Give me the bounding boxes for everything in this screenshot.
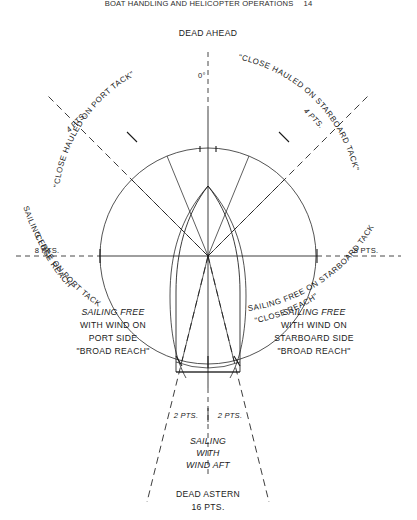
label-port-8pts: 8 PTS. [35, 246, 60, 255]
label-port-broad-line3: PORT SIDE [89, 333, 138, 343]
label-close-reach-port: "CLOSE REACH" [32, 230, 76, 291]
label-zero-degrees: 0° [198, 71, 206, 80]
label-sailing-free-port: SAILING FREE ON PORT TACK [21, 205, 103, 309]
label-aft-line1: SAILING [190, 436, 226, 446]
label-close-hauled-starboard: "CLOSE HAULED ON STARBOARD TACK" [238, 53, 361, 172]
tick-port-2pts [176, 356, 182, 366]
label-port-broad-line1: SAILING FREE [81, 307, 144, 317]
label-starboard-broad-line2: WITH WIND ON [281, 320, 347, 330]
label-dead-astern-points: 16 PTS. [191, 502, 224, 512]
label-dead-astern: DEAD ASTERN [176, 489, 240, 499]
radial-port-2pts [182, 256, 208, 361]
points-of-sail-diagram: "CLOSE HAULED ON PORT TACK" "CLOSE HAULE… [0, 0, 417, 520]
label-aft-line3: WIND AFT [186, 460, 230, 470]
label-starboard-8pts: 8 PTS. [354, 246, 379, 255]
radial-close-hauled-starboard [208, 156, 249, 256]
radial-close-hauled-port [167, 156, 208, 256]
tick-starboard-2pts [234, 356, 240, 366]
label-starboard-broad-line3: STARBOARD SIDE [274, 333, 354, 343]
label-dead-ahead: DEAD AHEAD [179, 28, 237, 38]
tick-port-4pts [127, 132, 137, 142]
label-port-broad-line2: WITH WIND ON [80, 320, 146, 330]
tick-starboard-4pts [279, 132, 289, 142]
radial-starboard-4pts [208, 180, 284, 256]
label-starboard-broad-line4: "BROAD REACH" [277, 346, 350, 356]
radial-starboard-2pts [208, 256, 234, 361]
label-starboard-broad-line1: SAILING FREE [282, 307, 345, 317]
label-port-2pts: 2 PTS. [173, 411, 198, 420]
label-aft-line2: WITH [196, 448, 220, 458]
label-starboard-2pts: 2 PTS. [217, 411, 242, 420]
figure-page: BOAT HANDLING AND HELICOPTER OPERATIONS1… [0, 0, 417, 520]
label-port-broad-line4: "BROAD REACH" [76, 346, 149, 356]
radial-port-4pts [132, 180, 208, 256]
